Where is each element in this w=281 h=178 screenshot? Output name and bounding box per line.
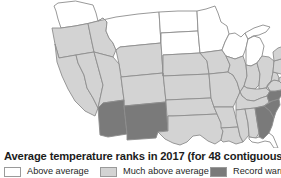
- swatch-above-average-icon: [4, 167, 21, 177]
- figure-caption: Average temperature ranks in 2017 (for 4…: [4, 148, 281, 164]
- state-KS[interactable]: [163, 73, 211, 102]
- legend: Above average Much above average Record …: [0, 165, 281, 178]
- legend-label-record-warmest: Record warmest: [233, 166, 281, 177]
- swatch-much-above-average-icon: [100, 167, 117, 177]
- legend-label-above-average: Above average: [27, 166, 89, 177]
- temperature-rank-map-figure: Average temperature ranks in 2017 (for 4…: [0, 0, 281, 178]
- state-CO[interactable]: [121, 73, 166, 106]
- state-NY[interactable]: [273, 44, 281, 61]
- state-TX[interactable]: [158, 114, 223, 145]
- legend-item-above-average[interactable]: Above average: [4, 165, 100, 178]
- legend-item-record-warmest[interactable]: Record warmest: [210, 165, 281, 178]
- legend-item-much-above-average[interactable]: Much above average: [100, 165, 210, 178]
- state-WY[interactable]: [116, 43, 163, 77]
- map-area: [0, 0, 281, 148]
- state-AZ[interactable]: [98, 100, 127, 137]
- state-NE[interactable]: [163, 53, 209, 76]
- us-choropleth-map: [0, 0, 281, 148]
- legend-label-much-above-average: Much above average: [123, 166, 209, 177]
- swatch-record-warmest-icon: [210, 167, 227, 177]
